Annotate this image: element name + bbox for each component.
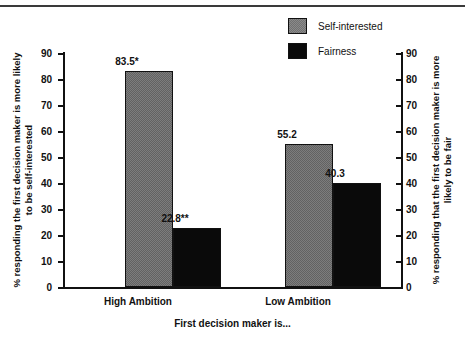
y-axis-left-title: % responding the first decision maker is… <box>6 40 40 300</box>
bar-value-label-low-self: 55.2 <box>260 129 314 140</box>
bar-value-label-low-fair: 40.3 <box>308 168 362 179</box>
y-ticklabel-left-10: 10 <box>41 257 52 267</box>
y-ticklabel-right-50: 50 <box>406 153 417 163</box>
bar-high-ambition-self-interested[interactable] <box>125 71 173 287</box>
y-axis-left-title-line1: % responding the first decision maker is… <box>11 40 23 300</box>
y-tick-left-0 <box>58 287 63 289</box>
y-axis-right-title-line1: % responding that the first decision mak… <box>430 40 442 300</box>
legend-label-self-interested: Self-interested <box>318 21 382 32</box>
x-category-label-low-ambition: Low Ambition <box>248 296 348 308</box>
y-ticklabel-left-30: 30 <box>41 205 52 215</box>
y-ticklabel-left-80: 80 <box>41 75 52 85</box>
x-axis-title: First decision maker is... <box>0 318 465 330</box>
y-ticklabel-left-90: 90 <box>41 49 52 59</box>
bar-value-label-high-self: 83.5* <box>100 56 154 67</box>
y-ticklabel-left-50: 50 <box>41 153 52 163</box>
x-axis-spine <box>63 287 403 289</box>
bar-high-ambition-fairness[interactable] <box>173 228 221 287</box>
top-rule-divider <box>0 5 465 7</box>
y-axis-right-title-line2: likely to be fair <box>442 40 454 300</box>
bar-low-ambition-fairness[interactable] <box>333 183 381 287</box>
y-ticklabel-right-80: 80 <box>406 75 417 85</box>
y-ticklabel-right-90: 90 <box>406 49 417 59</box>
bar-low-ambition-self-interested[interactable] <box>285 144 333 287</box>
y-ticklabel-left-60: 60 <box>41 127 52 137</box>
y-ticklabel-right-60: 60 <box>406 127 417 137</box>
legend-item-self-interested: Self-interested <box>288 18 382 34</box>
y-ticklabel-right-40: 40 <box>406 179 417 189</box>
y-ticklabel-left-0: 0 <box>46 283 52 293</box>
legend-swatch-self-interested <box>288 18 307 34</box>
y-tick-right-0 <box>396 287 401 289</box>
y-axis-left-title-line2: to be self-interested <box>23 40 35 300</box>
y-ticklabel-right-70: 70 <box>406 101 417 111</box>
x-category-label-high-ambition: High Ambition <box>88 296 188 308</box>
y-ticklabel-left-20: 20 <box>41 231 52 241</box>
y-ticklabel-right-20: 20 <box>406 231 417 241</box>
chart-figure: Self-interested Fairness 90 80 70 60 50 … <box>0 0 465 340</box>
y-ticklabel-right-0: 0 <box>406 283 412 293</box>
y-ticklabel-left-40: 40 <box>41 179 52 189</box>
y-ticklabel-right-30: 30 <box>406 205 417 215</box>
y-ticklabel-left-70: 70 <box>41 101 52 111</box>
bar-value-label-high-fair: 22.8** <box>148 213 202 224</box>
y-ticklabel-right-10: 10 <box>406 257 417 267</box>
y-axis-right-title: % responding that the first decision mak… <box>425 40 459 300</box>
